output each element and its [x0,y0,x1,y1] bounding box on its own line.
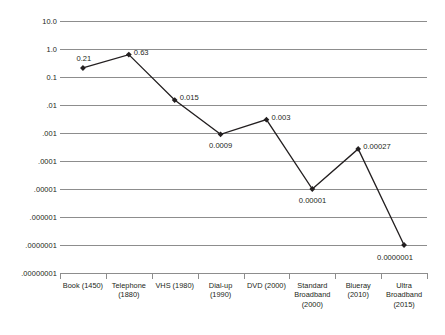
data-point-label: 0.003 [271,112,290,121]
x-tick [335,273,336,279]
x-tick [198,273,199,279]
data-point-label: 0.21 [76,53,91,62]
data-point-label: 0.0009 [209,141,232,150]
data-point-marker [80,65,86,71]
data-point-marker [401,242,407,248]
x-tick [289,273,290,279]
series-line [83,55,404,245]
data-point-label: 0.0000001 [377,253,413,262]
data-point-label: 0.00001 [299,196,326,205]
x-tick [381,273,382,279]
data-point-label: 0.00027 [363,141,390,150]
x-tick [60,273,61,279]
data-series [0,0,445,335]
data-point-label: 0.015 [180,93,199,102]
x-tick [427,273,428,279]
x-tick [106,273,107,279]
x-tick [152,273,153,279]
line-chart: 10.01.00.1.01.001.0001.00001.000001.0000… [0,0,445,335]
data-point-label: 0.63 [134,47,149,56]
x-tick [244,273,245,279]
